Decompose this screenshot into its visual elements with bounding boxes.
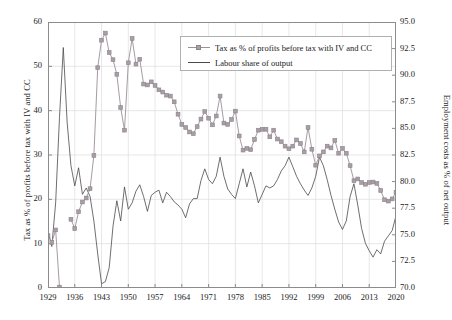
right-tick-87.5: 87.5 xyxy=(400,96,440,106)
legend-label-tax: Tax as % of profits before tax with IV a… xyxy=(212,43,372,53)
legend-swatch-tax-icon xyxy=(186,42,212,54)
left-tick-30: 30 xyxy=(8,149,42,159)
right-tick-95.0: 95.0 xyxy=(400,16,440,26)
left-tick-0: 0 xyxy=(8,282,42,292)
chart-legend: Tax as % of profits before tax with IV a… xyxy=(180,36,392,71)
right-tick-75.0: 75.0 xyxy=(400,229,440,239)
right-tick-72.5: 72.5 xyxy=(400,255,440,265)
left-tick-10: 10 xyxy=(8,238,42,248)
right-tick-80.0: 80.0 xyxy=(400,176,440,186)
left-tick-60: 60 xyxy=(8,16,42,26)
right-tick-70.0: 70.0 xyxy=(400,282,440,292)
right-tick-77.5: 77.5 xyxy=(400,202,440,212)
right-tick-90.0: 90.0 xyxy=(400,69,440,79)
legend-swatch-labour-icon xyxy=(186,57,212,69)
right-tick-92.5: 92.5 xyxy=(400,43,440,53)
right-tick-82.5: 82.5 xyxy=(400,149,440,159)
left-tick-50: 50 xyxy=(8,60,42,70)
left-tick-40: 40 xyxy=(8,105,42,115)
right-tick-85.0: 85.0 xyxy=(400,122,440,132)
legend-item-tax: Tax as % of profits before tax with IV a… xyxy=(186,40,386,55)
right-axis-title: Employment costs as % of net output xyxy=(442,45,452,275)
legend-item-labour: Labour share of output xyxy=(186,55,386,70)
x-tick-2020: 2020 xyxy=(376,292,416,302)
left-tick-20: 20 xyxy=(8,193,42,203)
legend-label-labour: Labour share of output xyxy=(212,58,293,68)
